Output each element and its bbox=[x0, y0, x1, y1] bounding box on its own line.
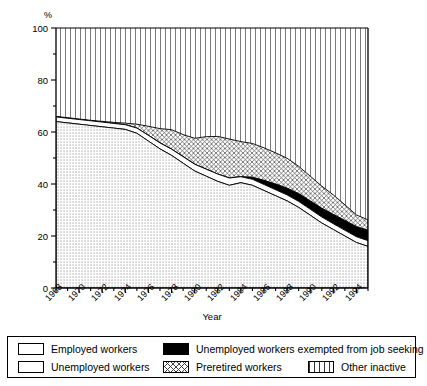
legend-swatch-white-icon bbox=[18, 361, 44, 373]
stacked-area-chart: % 100 80 60 40 20 0 bbox=[0, 0, 427, 330]
legend-label: Preretired workers bbox=[196, 361, 282, 373]
chart-legend: Employed workers Unemployed workers exem… bbox=[7, 336, 416, 378]
legend-label: Unemployed workers bbox=[51, 361, 150, 373]
legend-swatch-vertical-lines-icon bbox=[308, 361, 334, 373]
area-bands bbox=[56, 28, 368, 288]
legend-item-preretired-workers: Preretired workers bbox=[163, 358, 282, 375]
legend-item-employed-workers: Employed workers bbox=[18, 340, 137, 357]
legend-swatch-black-icon bbox=[163, 343, 189, 355]
chart-screenshot: % 100 80 60 40 20 0 bbox=[0, 0, 427, 386]
legend-label: Employed workers bbox=[51, 343, 137, 355]
plot-canvas bbox=[0, 0, 427, 330]
legend-swatch-dotted-icon bbox=[18, 343, 44, 355]
legend-label: Unemployed workers exempted from job see… bbox=[196, 343, 424, 355]
legend-item-other-inactive: Other inactive bbox=[308, 358, 406, 375]
legend-label: Other inactive bbox=[341, 361, 406, 373]
legend-item-unemployed-exempted: Unemployed workers exempted from job see… bbox=[163, 340, 424, 357]
legend-swatch-crosshatch-icon bbox=[163, 361, 189, 373]
x-axis-title: Year bbox=[157, 311, 267, 322]
y-axis-ticks bbox=[51, 28, 56, 288]
legend-item-unemployed-workers: Unemployed workers bbox=[18, 358, 150, 375]
